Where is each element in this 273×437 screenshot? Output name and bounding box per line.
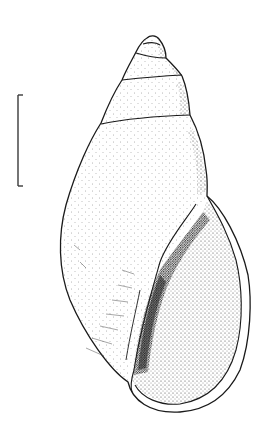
illustration-canvas — [0, 0, 273, 437]
scale-bar — [18, 95, 23, 186]
shell — [60, 36, 250, 412]
shell-illustration — [0, 0, 273, 437]
